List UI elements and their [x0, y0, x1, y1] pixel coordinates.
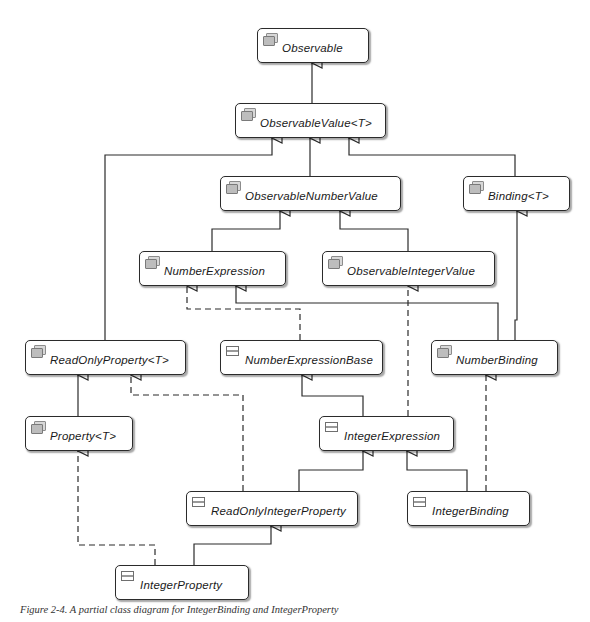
- edge-numberexpression-observablenumbervalue: [212, 211, 280, 251]
- edge-readonlyintegerproperty-readonlyproperty: [131, 375, 243, 491]
- edge-observableintegervalue-observablenumbervalue: [340, 211, 408, 251]
- edge-binding-observablevalue: [349, 138, 515, 176]
- class-diagram: Observable ObservableValue<T> Observable…: [0, 0, 590, 622]
- node-label: ReadOnlyProperty<T>: [26, 349, 169, 366]
- class-icon: [413, 497, 426, 507]
- node-property[interactable]: Property<T>: [25, 416, 133, 451]
- node-integer-expression[interactable]: IntegerExpression: [319, 416, 454, 451]
- node-read-only-integer-property[interactable]: ReadOnlyIntegerProperty: [186, 491, 358, 526]
- edge-integerproperty-property: [78, 451, 155, 565]
- node-label: ObservableNumberValue: [221, 185, 378, 202]
- class-icon: [226, 346, 239, 356]
- interface-icon: [31, 345, 45, 356]
- node-number-binding[interactable]: NumberBinding: [431, 340, 558, 375]
- interface-icon: [263, 33, 277, 44]
- edge-readonlyintegerproperty-integerexpression: [299, 451, 363, 491]
- node-observable-number-value[interactable]: ObservableNumberValue: [220, 176, 401, 211]
- edge-integerexpression-numberexpressionbase: [302, 375, 363, 416]
- edge-numberbinding-binding: [515, 211, 517, 340]
- node-observable-integer-value[interactable]: ObservableIntegerValue: [322, 251, 495, 286]
- interface-icon: [241, 108, 255, 119]
- interface-icon: [469, 181, 483, 192]
- edge-numberexpressionbase-numberexpression: [187, 286, 300, 340]
- interface-icon: [31, 421, 45, 432]
- node-label: ReadOnlyIntegerProperty: [187, 500, 346, 517]
- edge-readonlyproperty-observablevalue: [105, 138, 272, 340]
- edges-layer: [0, 0, 590, 622]
- edge-numberbinding-numberexpression: [236, 286, 498, 340]
- node-observable-value[interactable]: ObservableValue<T>: [235, 103, 386, 138]
- interface-icon: [226, 181, 240, 192]
- class-icon: [121, 571, 134, 581]
- node-label: ObservableIntegerValue: [323, 260, 475, 277]
- class-icon: [325, 422, 338, 432]
- node-integer-property[interactable]: IntegerProperty: [115, 565, 249, 600]
- node-label: NumberExpressionBase: [221, 349, 373, 366]
- node-integer-binding[interactable]: IntegerBinding: [407, 491, 530, 526]
- node-number-expression[interactable]: NumberExpression: [139, 251, 286, 286]
- node-read-only-property[interactable]: ReadOnlyProperty<T>: [25, 340, 186, 375]
- node-label: ObservableValue<T>: [236, 112, 372, 129]
- node-label: IntegerExpression: [320, 425, 440, 442]
- node-binding[interactable]: Binding<T>: [463, 176, 570, 211]
- node-observable[interactable]: Observable: [257, 28, 369, 63]
- class-icon: [192, 497, 205, 507]
- interface-icon: [437, 345, 451, 356]
- node-number-expression-base[interactable]: NumberExpressionBase: [220, 340, 383, 375]
- interface-icon: [328, 256, 342, 267]
- figure-caption: Figure 2-4. A partial class diagram for …: [20, 604, 338, 615]
- edge-integerproperty-readonlyintegerproperty: [194, 526, 271, 565]
- edge-integerbinding-integerexpression: [407, 451, 467, 491]
- interface-icon: [145, 256, 159, 267]
